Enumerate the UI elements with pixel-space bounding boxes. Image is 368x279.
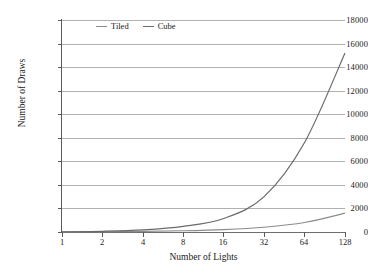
gridline-18000	[62, 20, 345, 21]
y-tick-label-6000: 6000	[322, 157, 368, 166]
plot-area	[62, 20, 345, 232]
legend-entry-tiled: Tiled	[96, 22, 129, 31]
gridline-4000	[62, 185, 345, 186]
legend-label-tiled: Tiled	[111, 22, 129, 31]
y-tick-label-12000: 12000	[322, 87, 368, 96]
chart-figure: 18000 16000 14000 12000 10000 8000 6000 …	[0, 0, 368, 279]
y-tick-mark-2000	[58, 208, 62, 209]
y-tick-mark-14000	[58, 67, 62, 68]
gridline-0-baseline	[62, 232, 345, 233]
legend-entry-cube: Cube	[143, 22, 176, 31]
gridline-14000	[62, 67, 345, 68]
gridline-6000	[62, 161, 345, 162]
y-tick-mark-18000	[58, 20, 62, 21]
x-axis-title: Number of Lights	[62, 252, 345, 262]
x-tick-label-16: 16	[208, 238, 238, 247]
y-tick-mark-16000	[58, 44, 62, 45]
y-tick-mark-4000	[58, 185, 62, 186]
x-tick-label-2: 2	[87, 238, 117, 247]
y-axis-title: Number of Draws	[17, 33, 27, 153]
gridline-10000	[62, 114, 345, 115]
gridline-12000	[62, 91, 345, 92]
y-tick-label-4000: 4000	[322, 181, 368, 190]
chart-legend: Tiled Cube	[96, 22, 176, 31]
y-tick-mark-12000	[58, 91, 62, 92]
legend-label-cube: Cube	[158, 22, 176, 31]
x-tick-label-4: 4	[128, 238, 158, 247]
y-tick-mark-10000	[58, 114, 62, 115]
x-tick-label-64: 64	[289, 238, 319, 247]
y-tick-label-18000: 18000	[322, 16, 368, 25]
y-tick-mark-8000	[58, 138, 62, 139]
y-tick-mark-6000	[58, 161, 62, 162]
y-tick-label-2000: 2000	[322, 204, 368, 213]
x-tick-label-128: 128	[330, 238, 360, 247]
gridline-8000	[62, 138, 345, 139]
gridline-16000	[62, 44, 345, 45]
y-tick-label-10000: 10000	[322, 110, 368, 119]
x-tick-label-32: 32	[249, 238, 279, 247]
x-tick-label-1: 1	[47, 238, 77, 247]
y-tick-label-14000: 14000	[322, 63, 368, 72]
legend-swatch-cube	[143, 26, 154, 27]
x-tick-label-8: 8	[168, 238, 198, 247]
legend-swatch-tiled	[96, 26, 107, 27]
y-tick-label-8000: 8000	[322, 134, 368, 143]
y-tick-label-16000: 16000	[322, 40, 368, 49]
gridline-2000	[62, 208, 345, 209]
